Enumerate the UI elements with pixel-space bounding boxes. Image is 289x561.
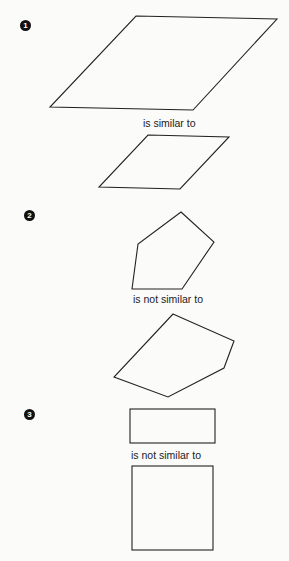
example-3-tall-rectangle — [132, 466, 213, 550]
diagram-canvas — [0, 0, 289, 561]
example-3-number-badge: 3 — [24, 409, 35, 420]
example-3-relation-label: is not similar to — [131, 449, 201, 461]
example-3-wide-rectangle — [130, 409, 215, 443]
example-1-large-parallelogram — [50, 16, 277, 110]
example-1-number-badge: 1 — [20, 20, 31, 31]
example-1-small-parallelogram — [99, 135, 229, 189]
example-1-relation-label: is similar to — [143, 117, 196, 129]
example-2-lower-pentagon — [114, 314, 234, 397]
example-2-relation-label: is not similar to — [133, 293, 203, 305]
example-2-number-badge: 2 — [24, 210, 35, 221]
example-2-upper-pentagon — [132, 212, 214, 289]
